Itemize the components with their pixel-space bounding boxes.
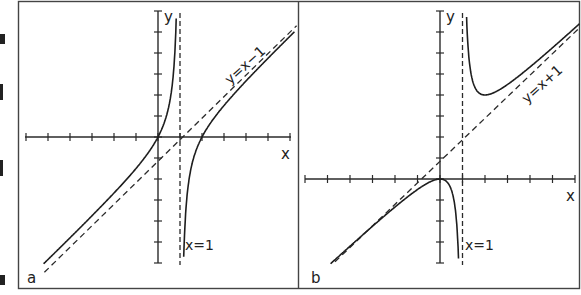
figure: a b y x x=1 y=x−1 y x x=1 y=x+1 [0,0,581,295]
panel-b-oblique-asymptote-label: y=x+1 [518,62,565,107]
curve-right-branch [467,17,580,95]
panel-b-vertical-asymptote-label: x=1 [465,237,494,253]
panel-b-label: b [311,269,321,287]
panel-b [305,11,580,265]
panel-a-label: a [27,269,36,287]
panel-a-vertical-asymptote-label: x=1 [185,237,214,253]
panel-b-y-axis-label: y [446,8,455,26]
panel-a-y-axis-label: y [164,8,173,26]
panel-b-x-axis-label: x [566,187,575,205]
panel-a-x-axis-label: x [281,145,290,163]
curve-left-branch [44,19,177,264]
